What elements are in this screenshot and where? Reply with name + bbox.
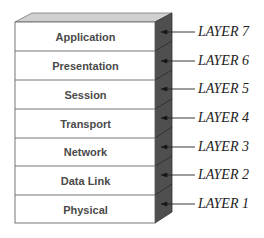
tag-layer-4: LAYER 4 bbox=[198, 110, 249, 126]
stack-top-face bbox=[15, 13, 172, 22]
tag-layer-1: LAYER 1 bbox=[198, 196, 249, 212]
layer-network: Network bbox=[16, 138, 155, 166]
tag-layer-7: LAYER 7 bbox=[198, 24, 249, 40]
layer-session: Session bbox=[16, 81, 155, 109]
tag-layer-6: LAYER 6 bbox=[198, 53, 249, 69]
layer-transport: Transport bbox=[16, 110, 155, 138]
layer-presentation: Presentation bbox=[16, 52, 155, 80]
osi-model-diagram: Application Presentation Session Transpo… bbox=[0, 0, 264, 238]
tag-layer-2: LAYER 2 bbox=[198, 167, 249, 183]
tag-layer-5: LAYER 5 bbox=[198, 81, 249, 97]
layer-application: Application bbox=[16, 23, 155, 51]
layer-data-link: Data Link bbox=[16, 167, 155, 195]
tag-layer-3: LAYER 3 bbox=[198, 139, 249, 155]
layer-physical: Physical bbox=[16, 196, 155, 224]
